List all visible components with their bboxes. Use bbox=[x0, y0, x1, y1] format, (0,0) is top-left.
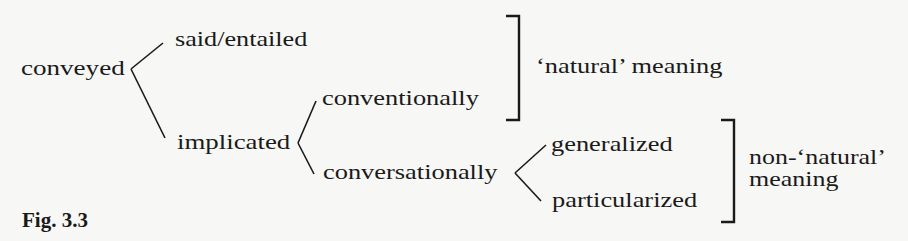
figure-caption: Fig. 3.3 bbox=[22, 210, 88, 231]
node-conventionally: conventionally bbox=[322, 87, 479, 109]
edge-implicated-conventionally bbox=[298, 101, 316, 143]
node-particularized: particularized bbox=[552, 189, 697, 211]
tree-lines bbox=[0, 0, 908, 241]
node-conversationally: conversationally bbox=[323, 161, 497, 183]
bracket-natural bbox=[506, 16, 519, 120]
node-implicated: implicated bbox=[177, 131, 290, 153]
edge-conveyed-said bbox=[131, 43, 163, 69]
label-natural-meaning: ‘natural’ meaning bbox=[536, 55, 722, 77]
node-conveyed: conveyed bbox=[21, 57, 125, 79]
node-said-entailed: said/entailed bbox=[175, 28, 307, 50]
label-non-natural-line2: meaning bbox=[749, 168, 838, 190]
node-generalized: generalized bbox=[551, 133, 673, 155]
label-non-natural-line1: non-‘natural’ bbox=[749, 146, 886, 168]
edge-conversationally-generalized bbox=[515, 145, 546, 173]
bracket-non-natural bbox=[721, 120, 734, 222]
edge-conversationally-particularized bbox=[515, 173, 541, 201]
edge-implicated-conversationally bbox=[298, 143, 314, 174]
edge-conveyed-implicated bbox=[131, 69, 165, 138]
